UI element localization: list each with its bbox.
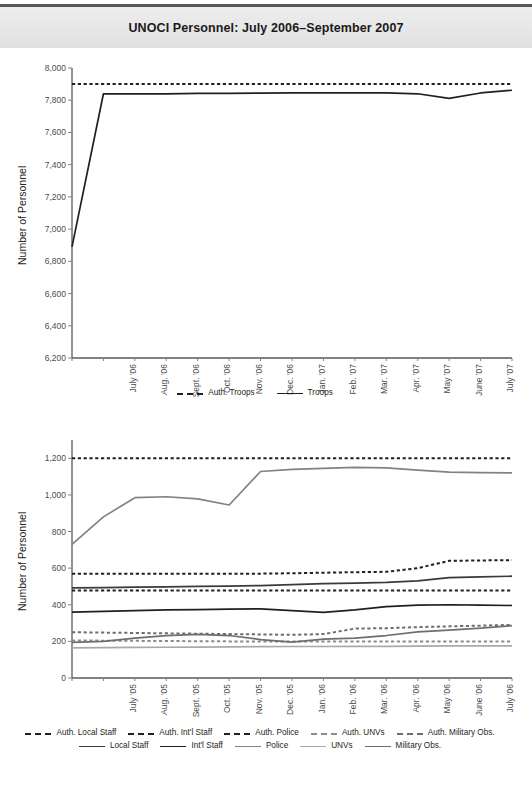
legend-row: Auth. Local StaffAuth. Int'l StaffAuth. … bbox=[0, 728, 532, 737]
legend-dashed-line-icon bbox=[128, 729, 154, 736]
legend-item[interactable]: Auth. Local Staff bbox=[25, 728, 116, 737]
y-axis-label: Number of Personnel bbox=[16, 512, 28, 611]
plot-canvas bbox=[0, 56, 532, 406]
legend-label: Auth. Troops bbox=[208, 388, 254, 397]
legend-item[interactable]: Local Staff bbox=[79, 741, 149, 750]
legend-solid-line-icon bbox=[235, 742, 261, 749]
series-line bbox=[72, 90, 512, 247]
y-tick-label: 6,200 bbox=[28, 353, 66, 363]
legend-solid-line-icon bbox=[79, 742, 105, 749]
series-line bbox=[72, 467, 512, 544]
plot-area bbox=[0, 56, 532, 406]
legend-item[interactable]: Military Obs. bbox=[365, 741, 442, 750]
legend-solid-line-icon bbox=[365, 742, 391, 749]
legend-label: Troops bbox=[308, 388, 333, 397]
y-tick-label: 1,200 bbox=[28, 453, 66, 463]
y-tick-label: 6,600 bbox=[28, 289, 66, 299]
legend-item[interactable]: Troops bbox=[277, 388, 333, 397]
legend-label: UNVs bbox=[331, 741, 352, 750]
y-tick-label: 8,000 bbox=[28, 63, 66, 73]
chart-legend: Auth. TroopsTroops bbox=[0, 388, 532, 401]
series-line bbox=[72, 646, 512, 648]
legend-dashed-line-icon bbox=[177, 389, 203, 396]
series-line bbox=[72, 605, 512, 613]
legend-row: Auth. TroopsTroops bbox=[0, 388, 532, 397]
chart-legend: Auth. Local StaffAuth. Int'l StaffAuth. … bbox=[0, 728, 532, 754]
legend-solid-line-icon bbox=[277, 389, 303, 396]
y-tick-label: 0 bbox=[28, 673, 66, 683]
y-axis-label: Number of Personnel bbox=[16, 166, 28, 265]
legend-dashed-line-icon bbox=[25, 729, 51, 736]
y-tick-label: 6,400 bbox=[28, 321, 66, 331]
legend-row: Local StaffInt'l StaffPoliceUNVsMilitary… bbox=[0, 741, 532, 750]
y-tick-label: 1,000 bbox=[28, 490, 66, 500]
legend-label: Auth. Police bbox=[255, 728, 299, 737]
y-tick-label: 6,800 bbox=[28, 256, 66, 266]
legend-label: Military Obs. bbox=[396, 741, 442, 750]
legend-item[interactable]: Auth. Military Obs. bbox=[397, 728, 495, 737]
legend-item[interactable]: Auth. UNVs bbox=[311, 728, 385, 737]
y-tick-label: 7,000 bbox=[28, 224, 66, 234]
legend-label: Auth. Local Staff bbox=[56, 728, 116, 737]
y-tick-label: 800 bbox=[28, 527, 66, 537]
y-tick-label: 7,800 bbox=[28, 95, 66, 105]
legend-dashed-line-icon bbox=[311, 729, 337, 736]
y-tick-label: 7,600 bbox=[28, 127, 66, 137]
legend-item[interactable]: Auth. Police bbox=[224, 728, 299, 737]
chart-personnel-components: Number of Personnel1,2001,00080060040020… bbox=[0, 428, 532, 788]
y-tick-label: 600 bbox=[28, 563, 66, 573]
legend-item[interactable]: Int'l Staff bbox=[160, 741, 222, 750]
legend-label: Auth. Military Obs. bbox=[428, 728, 495, 737]
page-title: UNOCI Personnel: July 2006–September 200… bbox=[0, 21, 532, 35]
legend-dashed-line-icon bbox=[397, 729, 423, 736]
legend-item[interactable]: Auth. Int'l Staff bbox=[128, 728, 212, 737]
legend-item[interactable]: UNVs bbox=[300, 741, 352, 750]
legend-label: Int'l Staff bbox=[191, 741, 222, 750]
chart-troops: Number of Personnel8,0007,8007,6007,4007… bbox=[0, 56, 532, 406]
y-tick-label: 7,400 bbox=[28, 160, 66, 170]
series-line bbox=[72, 576, 512, 588]
legend-label: Police bbox=[266, 741, 288, 750]
y-tick-label: 400 bbox=[28, 600, 66, 610]
legend-label: Auth. Int'l Staff bbox=[159, 728, 212, 737]
legend-label: Auth. UNVs bbox=[342, 728, 385, 737]
legend-solid-line-icon bbox=[300, 742, 326, 749]
legend-item[interactable]: Auth. Troops bbox=[177, 388, 254, 397]
y-tick-label: 200 bbox=[28, 636, 66, 646]
legend-solid-line-icon bbox=[160, 742, 186, 749]
y-tick-label: 7,200 bbox=[28, 192, 66, 202]
series-line bbox=[72, 560, 512, 574]
series-line bbox=[72, 640, 512, 641]
legend-label: Local Staff bbox=[110, 741, 149, 750]
legend-item[interactable]: Police bbox=[235, 741, 288, 750]
legend-dashed-line-icon bbox=[224, 729, 250, 736]
